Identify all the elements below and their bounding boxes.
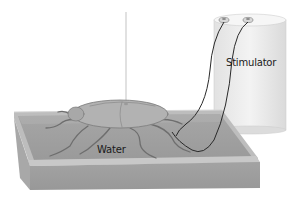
stimulator-label: Stimulator [226,57,276,68]
terminal-left [219,17,229,22]
water-label: Water [97,144,126,155]
experiment-illustration [0,0,296,206]
terminal-right [243,17,253,22]
